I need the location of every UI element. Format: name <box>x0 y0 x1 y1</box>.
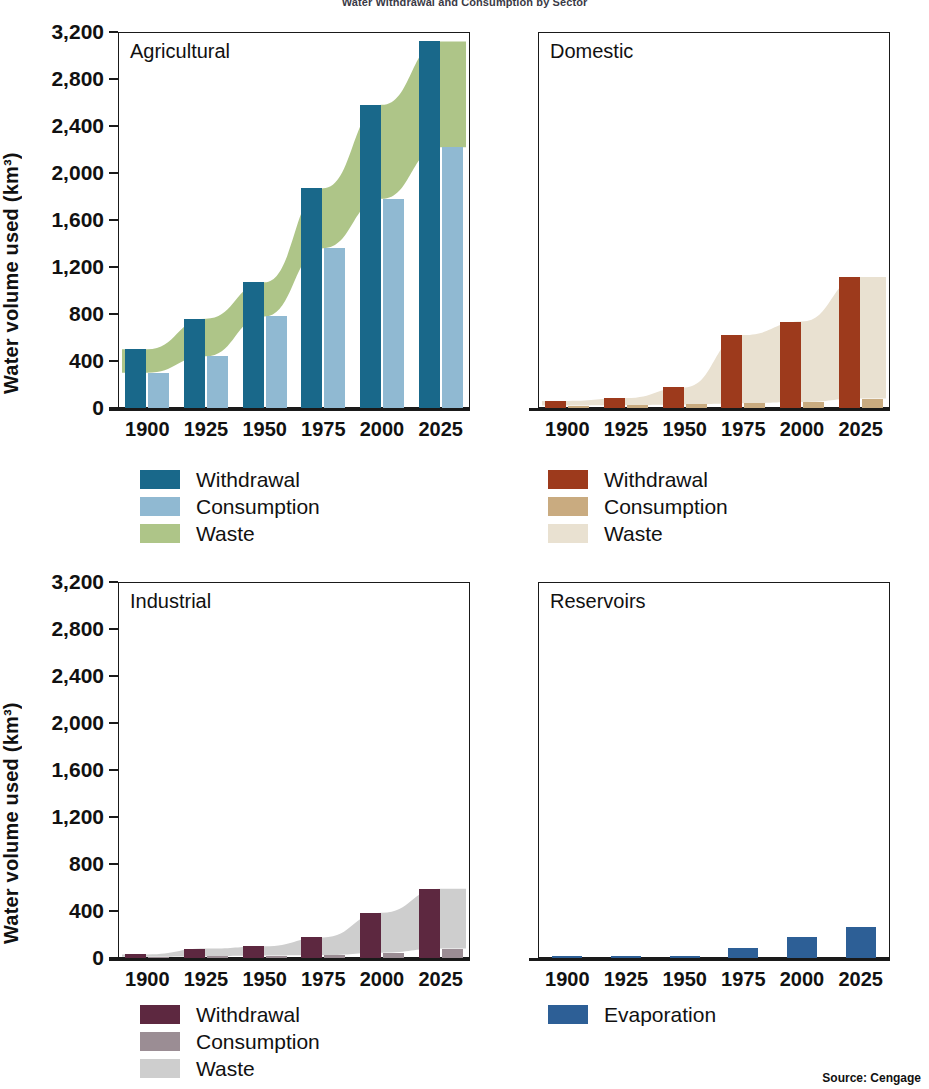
bar-agricultural-consumption-2025 <box>442 147 463 408</box>
legend-item-domestic-waste[interactable]: Waste <box>548 520 728 547</box>
y-tick-label: 3,200 <box>0 20 104 44</box>
bar-domestic-consumption-1975 <box>744 403 765 408</box>
legend-item-industrial-withdrawal[interactable]: Withdrawal <box>140 1001 320 1028</box>
y-tick-mark <box>109 722 118 724</box>
legend-item-label: Withdrawal <box>604 469 708 490</box>
bar-agricultural-withdrawal-1900 <box>125 349 146 408</box>
panel-title-reservoirs: Reservoirs <box>550 590 646 613</box>
bar-agricultural-withdrawal-1975 <box>301 188 322 408</box>
bar-agricultural-consumption-1925 <box>207 356 228 408</box>
y-tick-mark <box>109 31 118 33</box>
legend-swatch-icon <box>140 524 180 543</box>
legend-item-label: Waste <box>196 1058 255 1079</box>
bar-industrial-consumption-1975 <box>324 955 345 958</box>
bar-agricultural-withdrawal-2025 <box>419 41 440 408</box>
y-tick-mark <box>109 675 118 677</box>
bar-industrial-withdrawal-1975 <box>301 937 322 958</box>
legend-swatch-icon <box>140 1059 180 1078</box>
bar-domestic-consumption-1950 <box>686 404 707 408</box>
bar-industrial-withdrawal-1900 <box>125 954 146 958</box>
bar-industrial-consumption-1925 <box>207 956 228 958</box>
bar-industrial-consumption-1950 <box>266 956 287 958</box>
bar-domestic-withdrawal-1950 <box>663 387 684 408</box>
x-axis-line <box>109 408 470 411</box>
y-tick-mark <box>109 172 118 174</box>
bar-industrial-consumption-2025 <box>442 949 463 958</box>
bar-industrial-consumption-2000 <box>383 953 404 958</box>
y-tick-mark <box>109 219 118 221</box>
x-tick-label: 2025 <box>801 418 921 441</box>
bar-domestic-consumption-1925 <box>627 405 648 408</box>
y-tick-mark <box>109 125 118 127</box>
legend-swatch-icon <box>140 470 180 489</box>
bar-domestic-withdrawal-2025 <box>839 277 860 408</box>
bar-agricultural-withdrawal-1925 <box>184 319 205 408</box>
legend-item-label: Consumption <box>196 1031 320 1052</box>
x-axis-line <box>529 408 890 411</box>
legend-industrial: WithdrawalConsumptionWaste <box>140 1001 320 1082</box>
y-axis-title: Water volume used (km³) <box>0 608 23 944</box>
legend-item-agricultural-withdrawal[interactable]: Withdrawal <box>140 466 320 493</box>
legend-item-industrial-waste[interactable]: Waste <box>140 1055 320 1082</box>
y-tick-label: 0 <box>0 396 104 420</box>
y-axis-title: Water volume used (km³) <box>0 58 23 394</box>
bar-domestic-consumption-1900 <box>568 406 589 408</box>
waste-band-domestic <box>538 32 890 408</box>
legend-item-label: Consumption <box>196 496 320 517</box>
plot-frame-reservoirs <box>538 582 890 958</box>
bar-agricultural-consumption-1950 <box>266 316 287 408</box>
legend-item-label: Withdrawal <box>196 469 300 490</box>
bar-agricultural-withdrawal-2000 <box>360 105 381 408</box>
y-tick-mark <box>109 910 118 912</box>
bar-domestic-withdrawal-1900 <box>545 401 566 408</box>
legend-item-label: Withdrawal <box>196 1004 300 1025</box>
legend-item-label: Consumption <box>604 496 728 517</box>
legend-swatch-icon <box>548 524 588 543</box>
bar-agricultural-consumption-1900 <box>148 373 169 408</box>
legend-swatch-icon <box>548 497 588 516</box>
waste-band-industrial <box>118 582 470 958</box>
bar-reservoirs-evaporation-1975 <box>728 948 758 958</box>
y-tick-mark <box>109 816 118 818</box>
legend-item-label: Waste <box>604 523 663 544</box>
legend-agricultural: WithdrawalConsumptionWaste <box>140 466 320 547</box>
bar-reservoirs-evaporation-1925 <box>611 956 641 958</box>
x-tick-label: 2025 <box>801 968 921 991</box>
legend-swatch-icon <box>140 1032 180 1051</box>
y-tick-mark <box>109 78 118 80</box>
legend-item-domestic-withdrawal[interactable]: Withdrawal <box>548 466 728 493</box>
legend-item-agricultural-consumption[interactable]: Consumption <box>140 493 320 520</box>
legend-item-reservoirs-evaporation[interactable]: Evaporation <box>548 1001 716 1028</box>
legend-reservoirs: Evaporation <box>548 1001 716 1028</box>
bar-industrial-withdrawal-1925 <box>184 949 205 958</box>
legend-domestic: WithdrawalConsumptionWaste <box>548 466 728 547</box>
y-tick-mark <box>109 628 118 630</box>
bar-industrial-withdrawal-1950 <box>243 946 264 958</box>
bar-agricultural-consumption-1975 <box>324 248 345 408</box>
legend-swatch-icon <box>140 1005 180 1024</box>
bar-reservoirs-evaporation-1900 <box>552 956 582 958</box>
legend-item-label: Evaporation <box>604 1004 716 1025</box>
legend-item-agricultural-waste[interactable]: Waste <box>140 520 320 547</box>
legend-item-domestic-consumption[interactable]: Consumption <box>548 493 728 520</box>
source-note: Source: Cengage <box>822 1071 921 1085</box>
y-tick-mark <box>109 863 118 865</box>
bar-reservoirs-evaporation-1950 <box>670 956 700 958</box>
bar-domestic-consumption-2025 <box>862 399 883 408</box>
bar-reservoirs-evaporation-2000 <box>787 937 817 958</box>
figure-title: Water Withdrawal and Consumption by Sect… <box>0 0 929 8</box>
bar-domestic-consumption-2000 <box>803 402 824 408</box>
bar-domestic-withdrawal-2000 <box>780 322 801 408</box>
bar-domestic-withdrawal-1975 <box>721 335 742 408</box>
legend-item-label: Waste <box>196 523 255 544</box>
bar-industrial-consumption-1900 <box>148 957 169 958</box>
y-tick-mark <box>109 581 118 583</box>
legend-item-industrial-consumption[interactable]: Consumption <box>140 1028 320 1055</box>
waste-band-agricultural <box>118 32 470 408</box>
bar-industrial-withdrawal-2000 <box>360 913 381 958</box>
bar-agricultural-withdrawal-1950 <box>243 282 264 408</box>
y-tick-label: 3,200 <box>0 570 104 594</box>
bar-reservoirs-evaporation-2025 <box>846 927 876 958</box>
x-axis-line <box>109 958 470 961</box>
y-tick-mark <box>109 769 118 771</box>
